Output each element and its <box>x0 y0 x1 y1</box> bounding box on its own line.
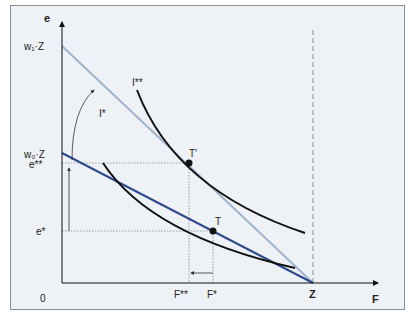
y-axis-label: e <box>44 12 50 24</box>
tick-e-star-star: e** <box>29 159 42 170</box>
curved-shift-arrow <box>72 90 94 160</box>
indifference-curve-i-star <box>103 163 295 268</box>
tick-f-star-star: F** <box>174 289 188 300</box>
point-t-prime <box>186 160 193 167</box>
tick-z: Z <box>309 288 316 300</box>
origin-label: 0 <box>40 293 46 304</box>
curve-label-i-star-star: I** <box>132 77 143 88</box>
tick-f-star: F* <box>207 289 217 300</box>
indifference-curve-i-star-star <box>137 90 305 233</box>
labor-leisure-diagram: e F 0 w₁·Z w₀·Z e** e* F** F* Z I* I** T… <box>0 0 413 318</box>
tick-w1z: w₁·Z <box>23 41 44 52</box>
point-t <box>210 228 217 235</box>
point-label-t-prime: T' <box>189 148 197 159</box>
x-axis-label: F <box>372 293 379 305</box>
guide-lines <box>62 163 213 283</box>
tick-e-star: e* <box>36 226 46 237</box>
curve-label-i-star: I* <box>99 108 106 119</box>
point-label-t: T <box>215 216 221 227</box>
